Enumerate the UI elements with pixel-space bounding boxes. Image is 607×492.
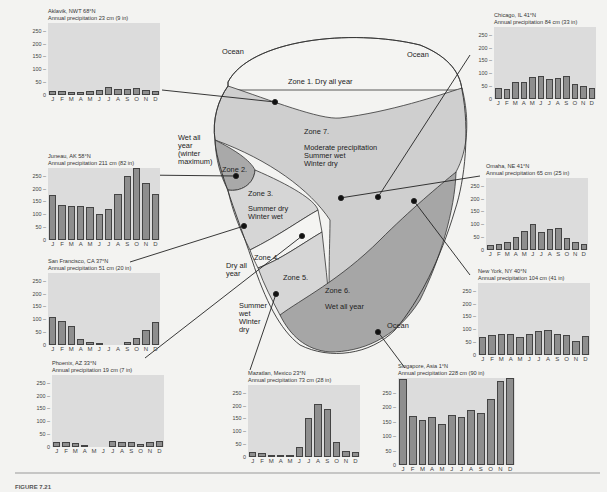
y-tick-label: 100 –	[26, 211, 46, 217]
y-tick-label: 100 –	[464, 221, 484, 227]
precipitation-chart: Aklavik, NWT 68°NAnnual precipitation 23…	[22, 8, 162, 110]
x-tick-label: S	[123, 346, 132, 352]
y-tick-label: 200 –	[226, 403, 246, 409]
x-tick-label: O	[562, 356, 571, 362]
x-tick-label: J	[537, 100, 546, 106]
x-tick-label: M	[520, 251, 529, 257]
x-tick-label: J	[304, 458, 313, 464]
bar	[563, 335, 570, 355]
bar	[128, 442, 135, 447]
x-tick-label: A	[113, 346, 122, 352]
bar	[156, 441, 163, 447]
x-tick-label: O	[132, 96, 141, 102]
chart-subtitle: Annual precipitation 84 cm (33 in)	[494, 19, 577, 26]
x-tick-label: N	[141, 346, 150, 352]
bar	[582, 336, 589, 355]
chart-plot-area	[494, 27, 596, 99]
x-tick-label: F	[487, 356, 496, 362]
y-tick-label: 150 –	[226, 415, 246, 421]
bar	[152, 91, 159, 95]
precipitation-chart: San Francisco, CA 37°NAnnual precipitati…	[22, 258, 162, 360]
x-tick-label: D	[151, 96, 160, 102]
bar	[124, 176, 131, 240]
bar	[428, 417, 436, 465]
bar	[538, 76, 545, 99]
bar	[512, 82, 519, 99]
y-tick-label: 150 –	[456, 313, 476, 319]
x-tick-label: S	[123, 96, 132, 102]
bar	[314, 404, 321, 457]
x-tick-label: O	[571, 100, 580, 106]
x-tick-label: O	[132, 346, 141, 352]
bar	[409, 416, 417, 465]
bar	[333, 442, 340, 457]
y-tick-label: 0	[26, 237, 46, 243]
bar	[118, 442, 125, 447]
chart-title: Aklavik, NWT 68°N	[48, 8, 96, 15]
bar	[258, 453, 265, 457]
x-tick-label: D	[581, 356, 590, 362]
ocean-label: Ocean	[222, 48, 244, 57]
bar	[49, 91, 56, 95]
bar	[86, 91, 93, 95]
y-tick-label: 100 –	[226, 428, 246, 434]
bar	[448, 415, 456, 465]
x-tick-label: J	[99, 448, 108, 454]
precipitation-chart: Mazatlan, Mexico 23°NAnnual precipitatio…	[222, 370, 362, 472]
y-tick-label: 200 –	[26, 41, 46, 47]
x-tick-label: M	[67, 241, 76, 247]
bar	[516, 337, 523, 355]
x-tick-label: F	[408, 466, 418, 472]
zone4-label: Zone 4.	[254, 254, 279, 263]
bar	[77, 206, 84, 240]
x-tick-label: S	[127, 448, 136, 454]
bar	[62, 442, 69, 447]
zone5-desc: dry	[239, 326, 249, 335]
bar	[286, 455, 293, 457]
precipitation-chart: Juneau, AK 58°NAnnual precipitation 211 …	[22, 153, 162, 255]
x-tick-label: A	[546, 251, 555, 257]
y-tick-label: 250 –	[26, 173, 46, 179]
x-tick-label: J	[52, 448, 61, 454]
x-tick-label: O	[332, 458, 341, 464]
x-tick-label: D	[151, 241, 160, 247]
x-tick-label: N	[145, 448, 154, 454]
x-tick-label: M	[418, 466, 428, 472]
y-tick-label: 50 –	[26, 79, 46, 85]
chart-title: San Francisco, CA 37°N	[48, 258, 108, 265]
bar	[72, 443, 79, 447]
bar	[53, 442, 60, 447]
chart-subtitle: Annual precipitation 73 cm (28 in)	[248, 377, 331, 384]
y-tick-label: 250 –	[472, 32, 492, 38]
bar	[555, 228, 562, 250]
y-tick-label: 150 –	[376, 419, 396, 425]
bar	[114, 89, 121, 95]
bar	[86, 207, 93, 240]
ocean-label: Ocean	[387, 322, 409, 331]
y-tick-label: 200 –	[26, 291, 46, 297]
x-tick-label: J	[525, 356, 534, 362]
x-tick-label: M	[497, 356, 506, 362]
y-tick-label: 50 –	[30, 431, 50, 437]
bar	[521, 231, 528, 250]
chart-plot-area	[486, 178, 588, 250]
x-tick-label: J	[398, 466, 408, 472]
chart-title: Phoenix, AZ 33°N	[52, 360, 96, 367]
x-tick-label: J	[104, 96, 113, 102]
bar	[105, 87, 112, 95]
x-tick-label: N	[496, 466, 506, 472]
zone4-desc: year	[226, 270, 240, 279]
x-tick-label: O	[132, 241, 141, 247]
zone3-title: Zone 3.	[248, 190, 273, 199]
x-tick-label: J	[478, 356, 487, 362]
bar	[544, 330, 551, 355]
bar	[109, 441, 116, 447]
chart-title: Juneau, AK 58°N	[48, 153, 91, 160]
x-tick-label: F	[57, 241, 66, 247]
x-tick-label: M	[503, 251, 512, 257]
precipitation-chart: Phoenix, AZ 33°NAnnual precipitation 19 …	[26, 360, 166, 462]
bar	[572, 341, 579, 355]
y-tick-label: 150 –	[30, 405, 50, 411]
y-tick-label: 50 –	[226, 441, 246, 447]
bar	[495, 88, 502, 99]
